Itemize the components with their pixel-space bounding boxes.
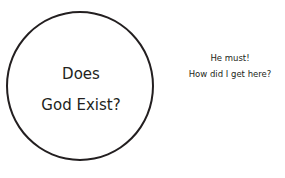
question-circle [6,11,154,161]
response-line-1: He must! [178,50,282,66]
circle-text-line-2: God Exist? [6,96,156,114]
response-text: He must! How did I get here? [178,50,282,82]
circle-text-line-1: Does [6,65,156,83]
response-line-2: How did I get here? [178,66,282,82]
